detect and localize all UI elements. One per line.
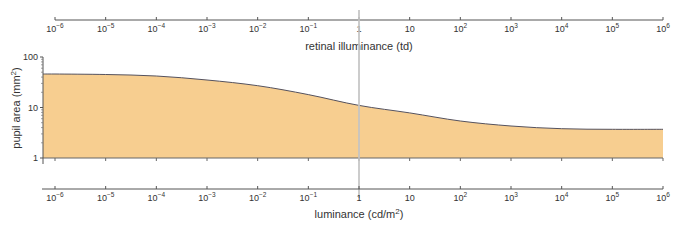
y-axis-title: pupil area (mm2): [9, 67, 22, 148]
x-tick-label: 104: [555, 191, 569, 203]
x-tick-label: 105: [606, 191, 620, 203]
y-tick-label: 1: [33, 153, 38, 163]
pupil-area-fill: [43, 74, 663, 158]
x-tick-label: 103: [504, 191, 518, 203]
x-tick-label: 1: [356, 193, 361, 203]
x-tick-label: 105: [606, 22, 620, 34]
x-tick-label: 10: [405, 193, 415, 203]
x-tick-label: 10−4: [148, 191, 166, 203]
x-tick-label: 10−5: [97, 191, 115, 203]
x-tick-label: 10−3: [198, 22, 216, 34]
x-tick-label: 10−1: [300, 22, 318, 34]
x-tick-label: 102: [454, 22, 468, 34]
x-tick-label: 106: [656, 22, 670, 34]
x-tick-label: 10: [405, 24, 415, 34]
x-tick-label: 10−2: [249, 22, 267, 34]
pupil-area-chart: 10−610−510−410−310−210−11101021031041051…: [0, 0, 687, 234]
x-tick-label: 10−4: [148, 22, 166, 34]
y-axis: 110100 pupil area (mm2): [9, 52, 43, 164]
plot-area: [43, 74, 663, 161]
y-tick-label: 100: [23, 52, 38, 62]
x-tick-label: 103: [504, 22, 518, 34]
x-tick-label: 10−6: [46, 191, 64, 203]
bottom-x-axis: 10−610−510−410−310−210−11101021031041051…: [42, 186, 670, 220]
x-tick-label: 10−1: [300, 191, 318, 203]
x-tick-label: 10−3: [198, 191, 216, 203]
y-tick-label: 10: [28, 103, 38, 113]
y-axis-ticks: 110100: [23, 52, 43, 163]
x-tick-label: 10−5: [97, 22, 115, 34]
bottom-axis-title: luminance (cd/m2): [315, 207, 404, 220]
x-tick-label: 102: [454, 191, 468, 203]
x-tick-label: 104: [555, 22, 569, 34]
x-tick-label: 10−2: [249, 191, 267, 203]
x-tick-label: 10−6: [46, 22, 64, 34]
x-tick-label: 106: [656, 191, 670, 203]
